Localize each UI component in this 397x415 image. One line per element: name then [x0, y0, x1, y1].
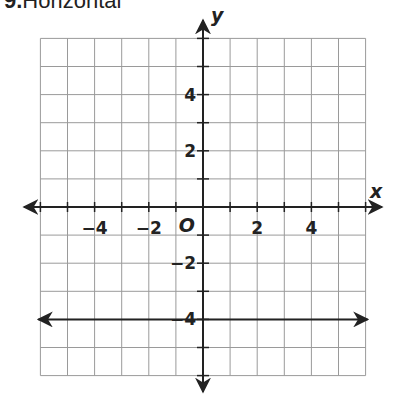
coordinate-plane: −4−22442−2−4Oxy: [0, 0, 397, 415]
y-tick-label: 4: [184, 85, 196, 105]
x-axis-label: x: [369, 180, 383, 202]
x-tick-label: −4: [82, 218, 108, 238]
x-tick-label: 2: [251, 218, 263, 238]
y-tick-label: 2: [184, 141, 196, 161]
x-tick-label: −2: [136, 218, 162, 238]
y-axis-label: y: [211, 4, 225, 26]
x-tick-label: 4: [305, 218, 317, 238]
y-tick-label: −2: [170, 253, 196, 273]
origin-label: O: [179, 214, 195, 236]
